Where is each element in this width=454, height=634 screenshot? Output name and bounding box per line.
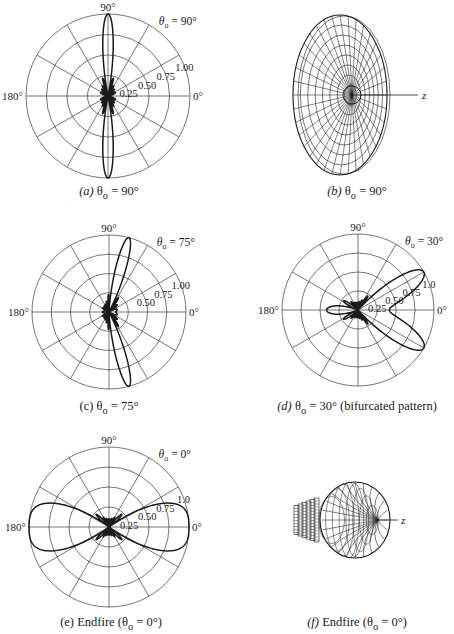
radial-tick-label: 0.75 xyxy=(402,287,420,298)
steering-angle-label: θo = 75° xyxy=(157,236,195,251)
caption-e: (e) Endfire (θo = 0°) xyxy=(60,615,162,632)
z-axis-label: z xyxy=(421,89,427,101)
caption-text: θ xyxy=(342,184,351,198)
caption-c: (c) θo = 75° xyxy=(79,399,138,416)
angle-label-90: 90° xyxy=(100,1,115,13)
caption-text: Endfire (θ xyxy=(74,615,128,629)
steering-angle-label: θo = 30° xyxy=(405,235,443,250)
figure: 90°180°0°0.250.500.751.00θo = 90° 90°180… xyxy=(0,0,454,634)
figure-canvas: 90°180°0°0.250.500.751.00θo = 90° 90°180… xyxy=(0,0,454,634)
angle-label-180: 180° xyxy=(5,521,26,533)
polar-plot-c: 90°180°0°0.500.751.00θo = 75° xyxy=(8,222,199,389)
bulb-meridian xyxy=(378,520,387,530)
caption-text: θ xyxy=(93,399,102,413)
polar-plot-d: 90°180°0°0.250.500.751.0θo = 30° xyxy=(258,221,447,386)
radial-tick-label: 0.25 xyxy=(120,520,138,531)
radial-tick-label: 1.00 xyxy=(172,280,190,291)
radial-tick-label: 0.50 xyxy=(137,297,155,308)
caption-tail: = 90° xyxy=(108,184,139,198)
caption-text: Endfire (θ xyxy=(319,615,373,629)
angle-label-0: 0° xyxy=(189,306,199,318)
radial-tick-label: 1.0 xyxy=(422,279,435,290)
caption-text: θ xyxy=(94,184,103,198)
radial-tick-label: 0.25 xyxy=(119,88,137,99)
caption-text: θ xyxy=(292,399,301,413)
caption-f: (f) Endfire (θo = 0°) xyxy=(307,615,407,632)
caption-letter: (e) xyxy=(60,615,74,629)
caption-letter: (d) xyxy=(277,399,292,413)
caption-tail: = 90° xyxy=(356,184,387,198)
angle-label-90: 90° xyxy=(101,434,116,446)
bulb-meridian xyxy=(326,520,378,539)
radial-tick-label: 0.50 xyxy=(138,80,156,91)
steering-angle-label: θo = 90° xyxy=(159,15,197,30)
caption-tail: = 75° xyxy=(108,399,139,413)
3d-pattern-disc-b: z xyxy=(293,15,427,175)
caption-letter: (b) xyxy=(327,184,342,198)
radial-tick-label: 0.25 xyxy=(368,303,386,314)
radial-tick-label: 0.50 xyxy=(385,295,403,306)
caption-tail: = 0°) xyxy=(378,615,407,629)
radial-tick-label: 0.75 xyxy=(154,289,172,300)
3d-pattern-bulb-f: z xyxy=(294,482,406,558)
angle-label-90: 90° xyxy=(350,221,365,233)
steering-angle-label: θo = 0° xyxy=(159,448,192,463)
caption-d: (d) θo = 30° (bifurcated pattern) xyxy=(277,399,437,416)
bulb-meridian xyxy=(378,520,384,539)
disc-meridian xyxy=(352,44,376,95)
disc-meridian xyxy=(324,95,352,170)
angle-label-0: 0° xyxy=(193,90,203,102)
caption-letter: (a) xyxy=(79,184,94,198)
caption-tail: = 30° (bifurcated pattern) xyxy=(306,399,437,413)
bulb-meridian xyxy=(326,501,378,520)
caption-tail: = 0°) xyxy=(133,615,162,629)
angle-label-0: 0° xyxy=(437,304,447,316)
disc-meridian xyxy=(352,68,384,95)
radial-tick-label: 0.75 xyxy=(157,71,175,82)
polar-plot-a: 90°180°0°0.250.500.751.00θo = 90° xyxy=(2,1,203,178)
radial-tick-label: 1.0 xyxy=(177,494,190,505)
polar-plot-e: 90°180°0°0.250.500.751.0θo = 0° xyxy=(5,434,202,607)
bulb-meridian xyxy=(378,501,384,520)
angle-label-180: 180° xyxy=(258,304,279,316)
angle-label-0: 0° xyxy=(192,521,202,533)
radial-tick-label: 1.00 xyxy=(175,62,193,73)
disc-meridian xyxy=(352,95,384,122)
caption-letter: (f) xyxy=(307,615,319,629)
caption-a: (a) θo = 90° xyxy=(79,184,139,201)
angle-label-180: 180° xyxy=(8,306,29,318)
angle-label-180: 180° xyxy=(2,90,23,102)
disc-meridian xyxy=(352,95,376,146)
radial-tick-label: 0.75 xyxy=(156,503,174,514)
caption-b: (b) θo = 90° xyxy=(327,184,387,201)
caption-letter: (c) xyxy=(79,399,93,413)
angle-label-90: 90° xyxy=(101,222,116,234)
radial-tick-label: 0.50 xyxy=(138,511,156,522)
bulb-meridian xyxy=(378,510,387,520)
disc-meridian xyxy=(324,20,352,95)
z-axis-label: z xyxy=(400,514,406,526)
